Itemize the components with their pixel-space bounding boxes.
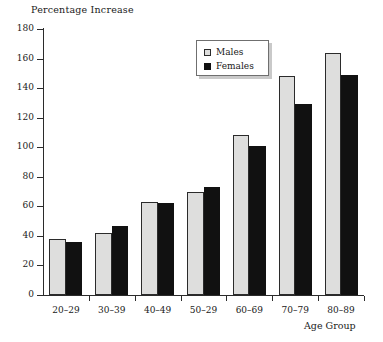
bar-chart: Percentage Increase 02040608010012014016… bbox=[0, 0, 383, 342]
x-tick-2 bbox=[135, 296, 136, 301]
legend: Males Females bbox=[196, 40, 269, 76]
bar-females-40–49 bbox=[158, 203, 175, 295]
bar-males-40–49 bbox=[141, 202, 158, 295]
x-tick-3 bbox=[181, 296, 182, 301]
y-tick-100 bbox=[37, 147, 43, 148]
x-tick-label-40–49: 40–49 bbox=[135, 305, 181, 315]
y-tick-160 bbox=[37, 59, 43, 60]
x-axis-line bbox=[43, 295, 364, 296]
y-tick-140 bbox=[37, 88, 43, 89]
bar-females-70–79 bbox=[295, 104, 312, 295]
x-tick-6 bbox=[318, 296, 319, 301]
y-tick-label-60: 60 bbox=[4, 200, 34, 210]
x-tick-4 bbox=[226, 296, 227, 301]
bar-males-20–29 bbox=[49, 239, 66, 295]
bar-males-60–69 bbox=[233, 135, 250, 295]
y-tick-label-80: 80 bbox=[4, 171, 34, 181]
y-tick-60 bbox=[37, 206, 43, 207]
y-tick-20 bbox=[37, 265, 43, 266]
bar-females-80–89 bbox=[341, 75, 358, 295]
y-tick-label-20: 20 bbox=[4, 259, 34, 269]
x-tick-end bbox=[364, 296, 365, 301]
x-tick-label-20–29: 20–29 bbox=[43, 305, 89, 315]
y-tick-label-100: 100 bbox=[4, 141, 34, 151]
bar-males-80–89 bbox=[325, 53, 342, 295]
bar-females-60–69 bbox=[249, 146, 266, 295]
legend-label-males: Males bbox=[216, 47, 243, 57]
x-tick-label-70–79: 70–79 bbox=[272, 305, 318, 315]
legend-swatch-females bbox=[204, 63, 211, 70]
bar-males-70–79 bbox=[279, 76, 296, 295]
x-tick-5 bbox=[272, 296, 273, 301]
y-axis-line bbox=[43, 28, 44, 296]
y-axis-title: Percentage Increase bbox=[31, 4, 134, 15]
y-tick-80 bbox=[37, 177, 43, 178]
x-tick-label-80–89: 80–89 bbox=[318, 305, 364, 315]
bar-females-20–29 bbox=[66, 242, 83, 295]
x-tick-label-30–39: 30–39 bbox=[89, 305, 135, 315]
legend-item-females: Females bbox=[204, 59, 268, 73]
legend-item-males: Males bbox=[204, 45, 268, 59]
y-tick-40 bbox=[37, 236, 43, 237]
y-tick-180 bbox=[37, 29, 43, 30]
y-tick-label-40: 40 bbox=[4, 230, 34, 240]
legend-swatch-males bbox=[204, 49, 211, 56]
y-tick-label-140: 140 bbox=[4, 82, 34, 92]
bar-males-30–39 bbox=[95, 233, 112, 295]
bar-males-50–29 bbox=[187, 192, 204, 295]
x-tick-1 bbox=[89, 296, 90, 301]
x-tick-label-60–69: 60–69 bbox=[226, 305, 272, 315]
bar-females-30–39 bbox=[112, 226, 129, 295]
y-tick-120 bbox=[37, 118, 43, 119]
y-tick-0 bbox=[37, 295, 43, 296]
legend-label-females: Females bbox=[216, 61, 254, 71]
y-tick-label-0: 0 bbox=[4, 289, 34, 299]
x-tick-label-50–29: 50–29 bbox=[181, 305, 227, 315]
x-axis-title: Age Group bbox=[304, 320, 356, 331]
y-tick-label-180: 180 bbox=[4, 23, 34, 33]
bar-females-50–29 bbox=[204, 187, 221, 295]
y-tick-label-120: 120 bbox=[4, 112, 34, 122]
y-tick-label-160: 160 bbox=[4, 53, 34, 63]
